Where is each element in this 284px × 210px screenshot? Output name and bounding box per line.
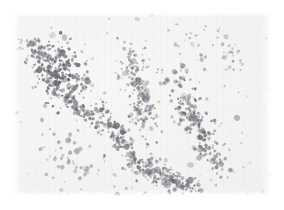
micrograph-plate <box>13 12 271 196</box>
particle-scatter-canvas <box>13 12 271 196</box>
screenshot-root <box>0 0 284 210</box>
